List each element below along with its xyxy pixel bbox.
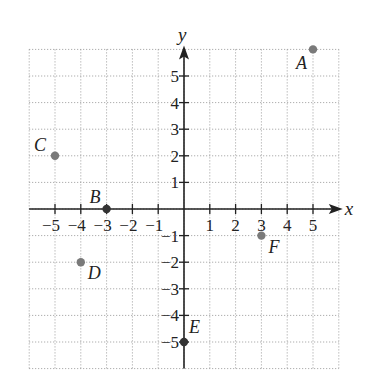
point-c: C bbox=[34, 135, 59, 160]
point-marker bbox=[180, 338, 188, 346]
x-tick-label: −5 bbox=[42, 216, 60, 235]
point-label: B bbox=[90, 187, 101, 207]
x-tick-label: 5 bbox=[309, 216, 318, 235]
y-tick-label: 4 bbox=[171, 94, 180, 113]
point-f: F bbox=[257, 231, 280, 256]
point-label: E bbox=[188, 317, 200, 337]
point-label: F bbox=[267, 237, 280, 257]
data-points: ABCDEF bbox=[34, 45, 317, 346]
y-axis-title: y bbox=[176, 24, 187, 45]
x-axis-title: x bbox=[344, 198, 354, 219]
point-e: E bbox=[180, 317, 200, 346]
x-tick-label: 4 bbox=[283, 216, 292, 235]
y-tick-label: −3 bbox=[161, 280, 179, 299]
y-tick-label: −1 bbox=[161, 227, 179, 246]
point-marker bbox=[102, 205, 110, 213]
y-tick-label: 3 bbox=[171, 120, 180, 139]
y-tick-label: −4 bbox=[161, 306, 180, 325]
y-tick-label: −5 bbox=[161, 333, 179, 352]
x-tick-label: −3 bbox=[94, 216, 112, 235]
point-marker bbox=[77, 258, 85, 266]
point-marker bbox=[51, 152, 59, 160]
y-tick-label: 2 bbox=[171, 147, 180, 166]
coordinate-plane: xy −5−4−3−2−11234554321−1−2−3−4−5 ABCDEF bbox=[0, 0, 368, 386]
point-marker bbox=[309, 45, 317, 53]
point-marker bbox=[257, 231, 265, 239]
y-tick-label: 1 bbox=[171, 173, 180, 192]
x-tick-label: −2 bbox=[119, 216, 137, 235]
x-tick-label: 1 bbox=[206, 216, 215, 235]
point-label: D bbox=[87, 263, 101, 283]
y-tick-label: −2 bbox=[161, 253, 179, 272]
x-tick-label: 2 bbox=[231, 216, 240, 235]
x-tick-label: −4 bbox=[68, 216, 87, 235]
y-tick-label: 5 bbox=[171, 67, 180, 86]
point-d: D bbox=[77, 258, 101, 283]
point-label: A bbox=[295, 53, 308, 73]
point-label: C bbox=[34, 135, 47, 155]
